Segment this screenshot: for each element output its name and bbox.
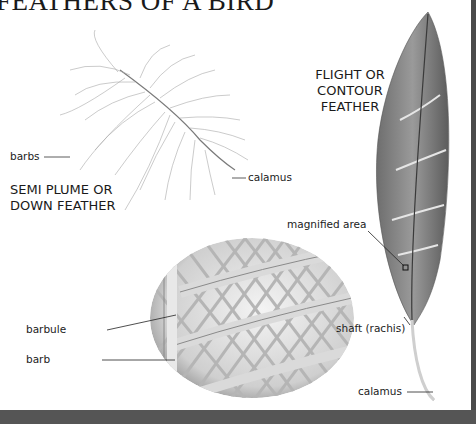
down-feather-heading-line2: DOWN FEATHER bbox=[10, 198, 116, 214]
label-shaft: shaft (rachis) bbox=[336, 322, 405, 334]
down-feather-heading: SEMI PLUME OR DOWN FEATHER bbox=[10, 182, 116, 214]
frame-border-right bbox=[471, 0, 476, 424]
down-feather-heading-line1: SEMI PLUME OR bbox=[10, 182, 116, 198]
label-barbule: barbule bbox=[26, 323, 66, 335]
label-flight-calamus: calamus bbox=[358, 385, 402, 397]
flight-feather-heading-line3: FEATHER bbox=[310, 99, 390, 115]
diagram-page: FEATHERS OF A BIRD bbox=[0, 0, 471, 410]
label-magnified-area: magnified area bbox=[287, 218, 366, 230]
flight-feather-heading-line2: CONTOUR bbox=[310, 83, 390, 99]
label-barbs: barbs bbox=[10, 150, 40, 162]
label-down-calamus: calamus bbox=[248, 171, 292, 183]
label-barb: barb bbox=[26, 353, 50, 365]
frame-border-bottom bbox=[0, 410, 476, 424]
magnified-area-drawing bbox=[140, 232, 360, 405]
flight-feather-heading: FLIGHT OR CONTOUR FEATHER bbox=[310, 67, 390, 115]
flight-feather-heading-line1: FLIGHT OR bbox=[310, 67, 390, 83]
